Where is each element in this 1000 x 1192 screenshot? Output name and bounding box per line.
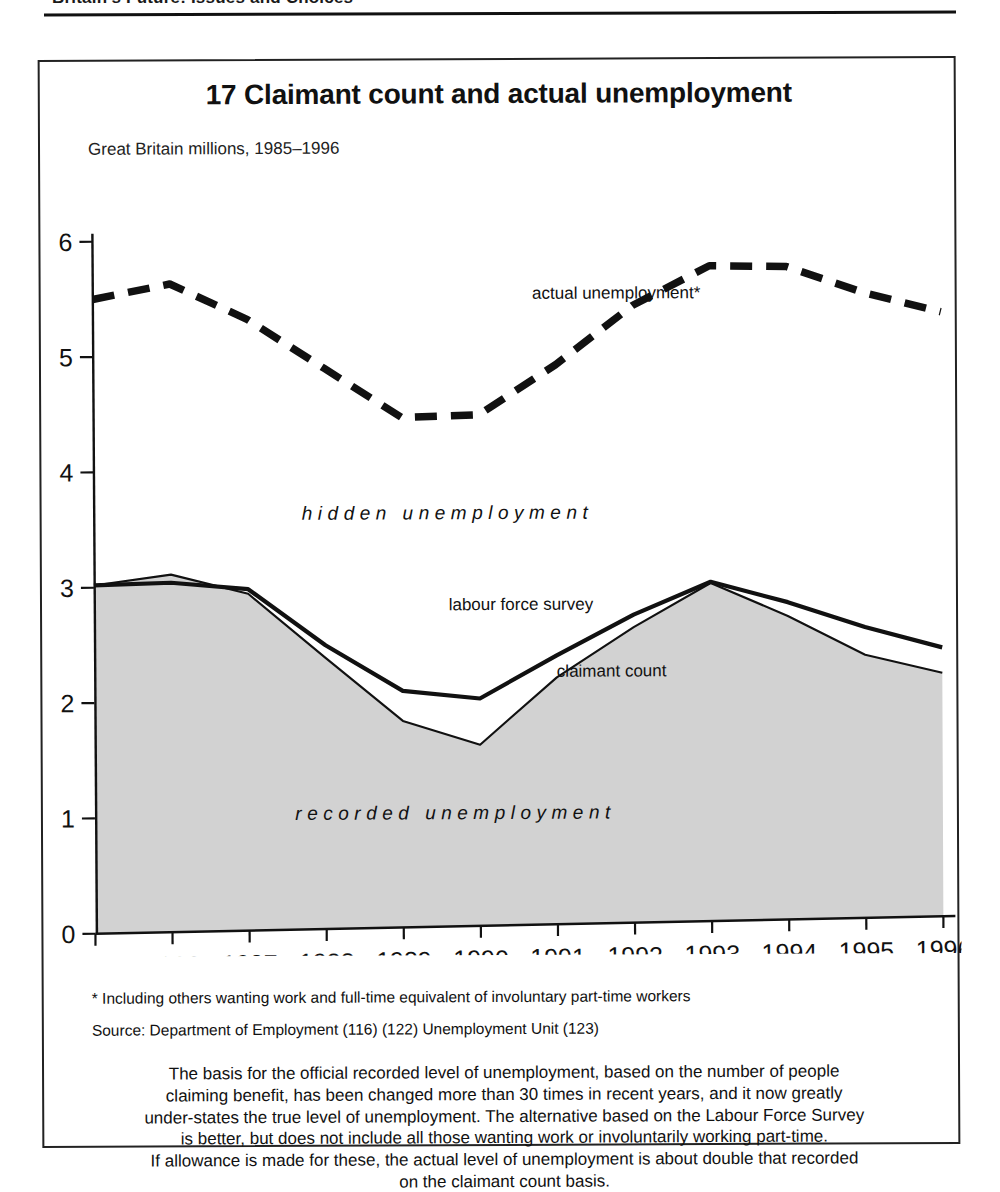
series-label-labour-force-survey: labour force survey bbox=[449, 595, 594, 616]
y-axis-tick-label: 1 bbox=[61, 805, 75, 833]
plot-area: 0123456198519861987198819891990199119921… bbox=[40, 163, 961, 957]
x-axis-tick-label: 1992 bbox=[607, 941, 663, 957]
figure-footnote: * Including others wanting work and full… bbox=[92, 987, 691, 1008]
chart-subtitle: Great Britain millions, 1985–1996 bbox=[88, 139, 339, 160]
x-axis-tick-label: 1986 bbox=[145, 951, 201, 957]
band-label-hidden-unemployment: hidden unemployment bbox=[302, 501, 594, 524]
x-axis-tick-label: 1985 bbox=[68, 953, 124, 957]
x-axis-tick-label: 1995 bbox=[839, 937, 895, 957]
x-axis-tick-label: 1996 bbox=[916, 935, 962, 957]
series-actual-unemployment bbox=[93, 265, 942, 419]
series-label-actual-unemployment: actual unemployment* bbox=[532, 283, 700, 304]
figure-source: Source: Department of Employment (116) (… bbox=[92, 1020, 599, 1040]
page-running-head: Britain's Future: Issues and Choices bbox=[0, 0, 1000, 22]
x-axis-tick-label: 1994 bbox=[761, 938, 817, 957]
running-head-text: Britain's Future: Issues and Choices bbox=[52, 0, 353, 8]
y-axis-tick-label: 2 bbox=[60, 689, 74, 717]
x-axis-tick-label: 1989 bbox=[376, 946, 432, 957]
x-axis-tick-label: 1991 bbox=[530, 943, 586, 957]
x-axis-tick-label: 1990 bbox=[453, 945, 509, 957]
band-label-recorded-unemployment: recorded unemployment bbox=[295, 801, 615, 824]
caption-line: If allowance is made for these, the actu… bbox=[88, 1147, 920, 1172]
caption-line: claiming benefit, has been changed more … bbox=[88, 1082, 920, 1107]
y-axis-tick-label: 5 bbox=[59, 343, 73, 371]
x-axis-tick-label: 1993 bbox=[684, 940, 740, 957]
y-axis-tick-label: 6 bbox=[58, 228, 72, 256]
chart-svg: 0123456198519861987198819891990199119921… bbox=[40, 163, 961, 957]
figure-caption: The basis for the official recorded leve… bbox=[88, 1060, 921, 1192]
y-axis-tick-label: 0 bbox=[61, 920, 75, 948]
x-axis-tick-label: 1988 bbox=[299, 948, 355, 957]
chart-title: 17 Claimant count and actual unemploymen… bbox=[40, 76, 958, 112]
x-axis-tick-label: 1987 bbox=[222, 949, 278, 957]
caption-line: on the claimant count basis. bbox=[88, 1169, 920, 1192]
y-axis-tick-label: 3 bbox=[60, 574, 74, 602]
series-label-claimant-count: claimant count bbox=[557, 661, 667, 681]
y-axis-tick-label: 4 bbox=[59, 459, 73, 487]
header-rule bbox=[44, 11, 956, 17]
figure-container: 17 Claimant count and actual unemploymen… bbox=[38, 56, 961, 1148]
